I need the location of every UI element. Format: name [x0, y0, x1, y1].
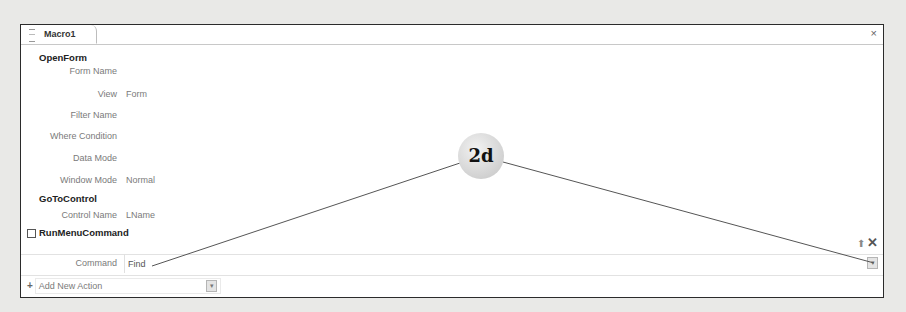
action-runmenucommand[interactable]: RunMenuCommand	[39, 227, 129, 238]
arg-label-command: Command	[0, 258, 117, 268]
command-input[interactable]	[124, 254, 864, 273]
collapse-icon[interactable]	[27, 229, 36, 238]
plus-icon: +	[27, 280, 33, 291]
action-gotocontrol[interactable]: GoToControl	[39, 193, 97, 204]
macro-designer-window: Macro1 × OpenForm Form Name View Form Fi…	[20, 24, 884, 298]
arg-value-view[interactable]: Form	[126, 89, 147, 99]
tab-label: Macro1	[44, 29, 76, 39]
add-new-action-dropdown-button[interactable]: ▾	[206, 280, 217, 292]
move-up-icon[interactable]: ⬆	[857, 238, 865, 249]
delete-action-icon[interactable]: ✕	[867, 235, 878, 250]
arg-value-control-name[interactable]: LName	[126, 210, 155, 220]
arg-value-window-mode[interactable]: Normal	[126, 175, 155, 185]
arg-label-window-mode: Window Mode	[0, 175, 117, 185]
tab-grip-icon	[29, 29, 35, 42]
tab-macro1[interactable]: Macro1	[39, 25, 97, 44]
add-new-action-label: Add New Action	[39, 281, 103, 291]
arg-label-control-name: Control Name	[0, 210, 117, 220]
arg-label-filter-name: Filter Name	[0, 110, 117, 120]
arg-label-where-condition: Where Condition	[0, 131, 117, 141]
close-icon[interactable]: ×	[871, 27, 877, 39]
command-dropdown-button[interactable]: ▾	[867, 257, 878, 269]
arg-label-form-name: Form Name	[0, 66, 117, 76]
add-new-action[interactable]: +Add New Action	[27, 280, 102, 291]
arg-label-data-mode: Data Mode	[0, 153, 117, 163]
action-openform[interactable]: OpenForm	[39, 52, 87, 63]
arg-label-view: View	[0, 89, 117, 99]
document-tab-bar: Macro1 ×	[21, 25, 883, 45]
callout-badge: 2d	[458, 133, 504, 179]
